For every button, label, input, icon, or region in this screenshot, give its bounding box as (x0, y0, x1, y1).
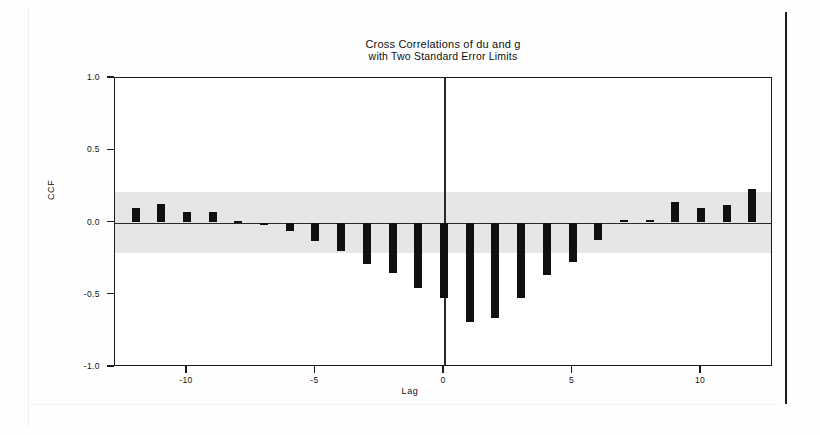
bar (466, 223, 474, 323)
bar (132, 208, 140, 222)
x-axis-tick-label: 5 (552, 375, 592, 385)
bar (723, 205, 731, 222)
y-axis-tick (107, 365, 114, 366)
bar (543, 223, 551, 275)
plot-area (114, 77, 772, 366)
bar (209, 212, 217, 222)
page-border-rule (785, 12, 787, 404)
chart-title-block: Cross Correlations of du and g with Two … (114, 38, 772, 62)
y-axis-tick-label: 1.0 (54, 72, 100, 82)
x-axis-tick-label: -10 (166, 375, 206, 385)
bar (440, 223, 448, 298)
bar (363, 223, 371, 265)
x-axis-tick (571, 366, 572, 373)
bar (157, 204, 165, 223)
lag-zero-reference-line (444, 78, 446, 365)
x-axis-tick-label: 0 (423, 375, 463, 385)
chart-page: Cross Correlations of du and g with Two … (0, 0, 820, 435)
bar (594, 223, 602, 240)
x-axis-tick (699, 366, 700, 373)
bar (234, 221, 242, 223)
y-axis-tick-label: 0.5 (54, 144, 100, 154)
y-axis-tick-label: -1.0 (54, 361, 100, 371)
y-axis-tick-label: -0.5 (54, 289, 100, 299)
x-axis-tick (314, 366, 315, 373)
bar (337, 223, 345, 252)
x-axis-tick-label: -5 (294, 375, 334, 385)
y-axis-tick (107, 149, 114, 150)
bar (620, 220, 628, 223)
y-axis-tick-label: 0.0 (54, 217, 100, 227)
chart-title: Cross Correlations of du and g (114, 38, 772, 50)
bar (748, 189, 756, 222)
y-axis-tick (107, 76, 114, 77)
plot-inner (115, 78, 771, 365)
x-axis-tick (185, 366, 186, 373)
bar (491, 223, 499, 318)
bar (311, 223, 319, 242)
x-axis-title: Lag (0, 386, 820, 396)
bar (389, 223, 397, 274)
bar (183, 212, 191, 222)
bar (414, 223, 422, 288)
y-axis-tick (107, 293, 114, 294)
chart-subtitle: with Two Standard Error Limits (114, 50, 772, 62)
y-axis-title: CCF (46, 180, 56, 200)
scan-artifact-line-bottom (30, 404, 782, 405)
bar (646, 220, 654, 223)
y-axis-tick (107, 221, 114, 222)
x-axis-tick (442, 366, 443, 373)
scan-artifact-line-left (28, 8, 29, 428)
bar (286, 223, 294, 232)
bar (569, 223, 577, 262)
bar (697, 208, 705, 222)
bar (517, 223, 525, 298)
bar (671, 202, 679, 222)
x-axis-tick-label: 10 (680, 375, 720, 385)
bar (260, 223, 268, 226)
